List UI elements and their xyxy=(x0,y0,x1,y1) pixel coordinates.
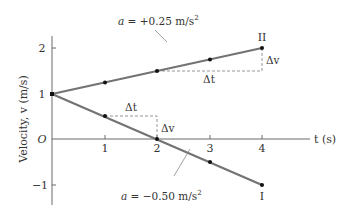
delta-v-II: Δv xyxy=(266,54,280,66)
x-axis-title: t (s) xyxy=(314,133,336,146)
y-tick-label-neg1: −1 xyxy=(32,179,48,192)
accel-I-label: a = −0.50 m/s2 xyxy=(121,189,202,202)
line-I-label: I xyxy=(260,190,264,203)
x-tick-label-4: 4 xyxy=(259,142,266,155)
leader-II xyxy=(155,30,167,42)
delta-t-I: Δt xyxy=(125,101,138,113)
y-axis-title: Velocity, v (m/s) xyxy=(17,75,30,164)
velocity-time-chart: 2 1 O −1 1 2 3 4 t (s) Velocity, v (m/s)… xyxy=(0,0,352,220)
delta-t-II: Δt xyxy=(203,73,216,85)
leader-I xyxy=(174,149,190,176)
delta-v-I: Δv xyxy=(161,122,175,134)
x-tick-label-2: 2 xyxy=(154,142,161,155)
accel-II-label: a = +0.25 m/s2 xyxy=(118,14,199,27)
y-tick-label-2: 2 xyxy=(39,42,46,55)
x-tick-label-1: 1 xyxy=(102,142,109,155)
line-II-label: II xyxy=(258,31,267,44)
origin-label: O xyxy=(37,133,46,146)
y-tick-label-1: 1 xyxy=(39,88,46,101)
x-tick-label-3: 3 xyxy=(207,142,214,155)
